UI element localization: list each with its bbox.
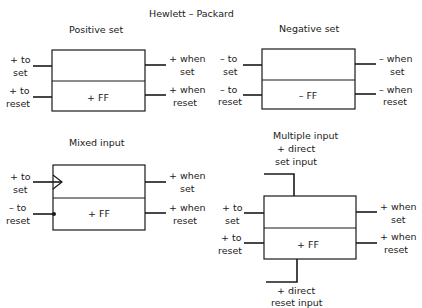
set-output-label-1: + when (380, 201, 417, 212)
reset-input-label-1: + to (221, 232, 242, 243)
reset-input-label-1: – to (220, 84, 237, 95)
flip-flop-diagram: Hewlett – Packard Positive set + FF + to… (0, 0, 422, 308)
box-label: + FF (87, 92, 109, 103)
set-output-label-2: set (390, 66, 405, 77)
reset-output-label-2: reset (384, 244, 408, 255)
positive-set-diagram: Positive set + FF + to set + to reset + … (6, 24, 206, 111)
inversion-dot-icon (52, 212, 56, 216)
set-input-label-1: – to (220, 53, 237, 64)
set-input-label-1: + to (10, 54, 31, 65)
reset-output-label-1: + when (169, 84, 206, 95)
set-output-label-1: + when (169, 53, 206, 64)
reset-input-label-2: reset (6, 215, 30, 226)
reset-input-label-1: + to (9, 85, 30, 96)
direct-set-label-2: set input (275, 156, 317, 167)
reset-input-label-2: reset (218, 96, 242, 107)
set-input-label-1: + to (10, 171, 31, 182)
reset-output-label-2: reset (173, 97, 197, 108)
direct-reset-label-1: + direct (277, 285, 315, 296)
negative-set-title: Negative set (279, 23, 339, 34)
positive-set-title: Positive set (69, 24, 123, 35)
reset-output-label-2: reset (383, 96, 407, 107)
mixed-input-title: Mixed input (69, 137, 125, 148)
reset-input-label-2: reset (6, 98, 30, 109)
set-input-label-2: set (225, 215, 240, 226)
direct-reset-label-2: reset input (271, 297, 323, 308)
reset-output-label-1: – when (379, 84, 412, 95)
reset-input-label-2: reset (218, 245, 242, 256)
box-label: + FF (88, 208, 110, 219)
negative-set-diagram: Negative set – FF – to set – to reset – … (218, 23, 412, 109)
direct-set-label-1: + direct (277, 143, 315, 154)
multiple-input-diagram: Multiple input + direct set input + FF +… (218, 130, 417, 308)
set-input-label-2: set (13, 67, 28, 78)
reset-output-label-1: + when (169, 202, 206, 213)
set-output-label-1: + when (169, 170, 206, 181)
direct-reset-input-line (266, 259, 297, 282)
box-label: + FF (297, 239, 319, 250)
set-input-label-1: + to (222, 202, 243, 213)
reset-output-label-1: + when (380, 231, 417, 242)
direct-set-input-line (264, 174, 294, 196)
reset-input-label-1: – to (9, 202, 26, 213)
set-output-label-1: – when (379, 53, 412, 64)
set-output-label-2: set (391, 214, 406, 225)
set-input-label-2: set (13, 184, 28, 195)
reset-output-label-2: reset (173, 215, 197, 226)
set-input-label-2: set (223, 66, 238, 77)
set-output-label-2: set (180, 66, 195, 77)
box-label: – FF (299, 90, 318, 101)
set-output-label-2: set (180, 183, 195, 194)
mixed-input-diagram: Mixed input + FF + to set – to reset + w… (6, 137, 206, 230)
header-title: Hewlett – Packard (149, 8, 234, 19)
multiple-input-title: Multiple input (273, 130, 338, 141)
